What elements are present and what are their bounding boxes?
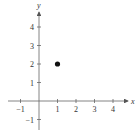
x-tick-label: 2 — [74, 105, 78, 114]
x-tick-label: 3 — [93, 105, 97, 114]
x-tick-label: 4 — [111, 105, 115, 114]
data-points — [55, 61, 60, 66]
y-tick-label: 2 — [30, 60, 34, 69]
coordinate-plane: x y −11234 −11234 — [0, 0, 139, 138]
y-tick-label: −1 — [25, 116, 34, 125]
y-tick-label: 4 — [30, 23, 34, 32]
data-point — [55, 61, 60, 66]
x-axis-label: x — [130, 97, 135, 106]
y-axis-label: y — [36, 1, 41, 10]
x-tick-label: 1 — [56, 105, 60, 114]
x-tick-label: −1 — [16, 105, 25, 114]
y-tick-label: 3 — [30, 42, 34, 51]
y-tick-label: 1 — [30, 79, 34, 88]
